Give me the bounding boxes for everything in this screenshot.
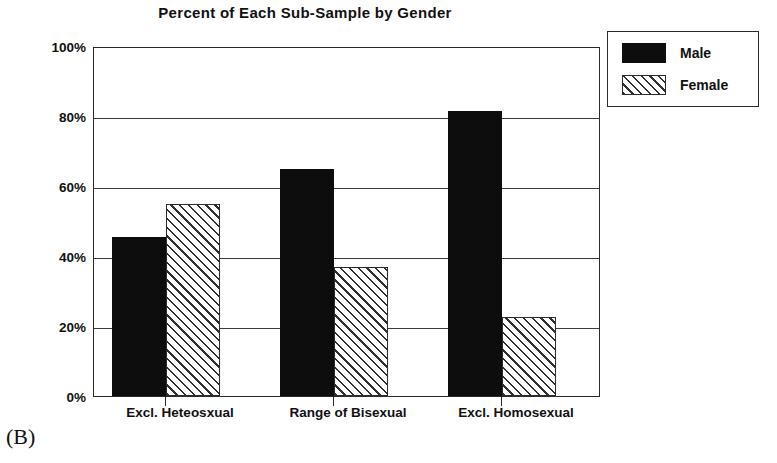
y-tick-label-0: 0%	[6, 390, 86, 405]
x-axis-label-excl-heteosxual: Excl. Heteosxual	[126, 405, 233, 420]
bar-female-range-of-bisexual	[334, 267, 388, 397]
y-tick-label-60: 60%	[6, 180, 86, 195]
legend-item-male: Male	[622, 42, 711, 64]
gridline-80	[94, 118, 599, 119]
y-tick-label-40: 40%	[6, 250, 86, 265]
y-tick-label-20: 20%	[6, 320, 86, 335]
legend: Male Female	[607, 31, 759, 107]
legend-item-female: Female	[622, 74, 728, 96]
plot-area	[93, 47, 600, 397]
bar-female-excl-heteosxual	[166, 204, 220, 397]
gridline-60	[94, 188, 599, 189]
chart-title: Percent of Each Sub-Sample by Gender	[75, 4, 535, 21]
bar-male-excl-heteosxual	[112, 237, 166, 396]
y-tick-label-80: 80%	[6, 110, 86, 125]
figure-panel-b: Percent of Each Sub-Sample by Gender 100…	[0, 0, 777, 463]
legend-label-female: Female	[680, 77, 728, 93]
y-tick-label-100: 100%	[6, 40, 86, 55]
bar-male-range-of-bisexual	[280, 169, 334, 397]
panel-label: (B)	[6, 424, 35, 450]
legend-swatch-female-icon	[622, 75, 666, 95]
x-axis-label-excl-homosexual: Excl. Homosexual	[458, 405, 574, 420]
legend-label-male: Male	[680, 45, 711, 61]
legend-swatch-male-icon	[622, 43, 666, 63]
y-axis: 100% 80% 60% 40% 20% 0%	[0, 47, 86, 397]
bar-female-excl-homosexual	[502, 317, 556, 396]
x-axis-label-range-of-bisexual: Range of Bisexual	[289, 405, 406, 420]
bar-male-excl-homosexual	[448, 111, 502, 396]
